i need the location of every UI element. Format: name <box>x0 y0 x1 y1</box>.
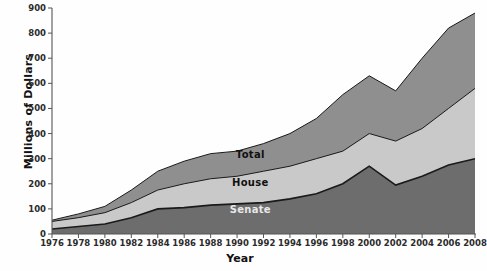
x-tick-label: 2000 <box>357 238 381 248</box>
x-tick-label: 1982 <box>119 238 143 248</box>
y-axis-tick-labels: 0100200300400500600700800900 <box>12 0 46 271</box>
x-tick-label: 1986 <box>172 238 196 248</box>
x-tick-label: 2004 <box>410 238 434 248</box>
x-axis-title: Year <box>0 252 480 265</box>
x-tick-label: 1994 <box>278 238 302 248</box>
y-tick-label: 600 <box>16 78 46 88</box>
y-tick-label: 900 <box>16 3 46 13</box>
x-tick-label: 1988 <box>199 238 223 248</box>
x-tick-label: 1976 <box>40 238 64 248</box>
x-tick-label: 2008 <box>463 238 487 248</box>
y-tick-label: 700 <box>16 53 46 63</box>
x-tick-label: 2002 <box>384 238 408 248</box>
series-label-senate: Senate <box>230 203 271 214</box>
x-tick-label: 1990 <box>225 238 249 248</box>
plot-area <box>52 8 475 234</box>
y-tick-label: 400 <box>16 129 46 139</box>
series-label-house: House <box>232 176 269 187</box>
y-tick-label: 500 <box>16 103 46 113</box>
series-label-total: Total <box>236 149 265 160</box>
x-tick-label: 1992 <box>252 238 276 248</box>
x-tick-label: 1980 <box>93 238 117 248</box>
y-tick-label: 200 <box>16 179 46 189</box>
y-tick-label: 100 <box>16 204 46 214</box>
y-tick-label: 800 <box>16 28 46 38</box>
y-tick-label: 300 <box>16 154 46 164</box>
x-tick-label: 1984 <box>146 238 170 248</box>
x-tick-label: 1996 <box>305 238 329 248</box>
x-tick-label: 1998 <box>331 238 355 248</box>
x-tick-label: 1978 <box>67 238 91 248</box>
x-tick-label: 2006 <box>437 238 461 248</box>
area-series-group <box>52 8 475 234</box>
